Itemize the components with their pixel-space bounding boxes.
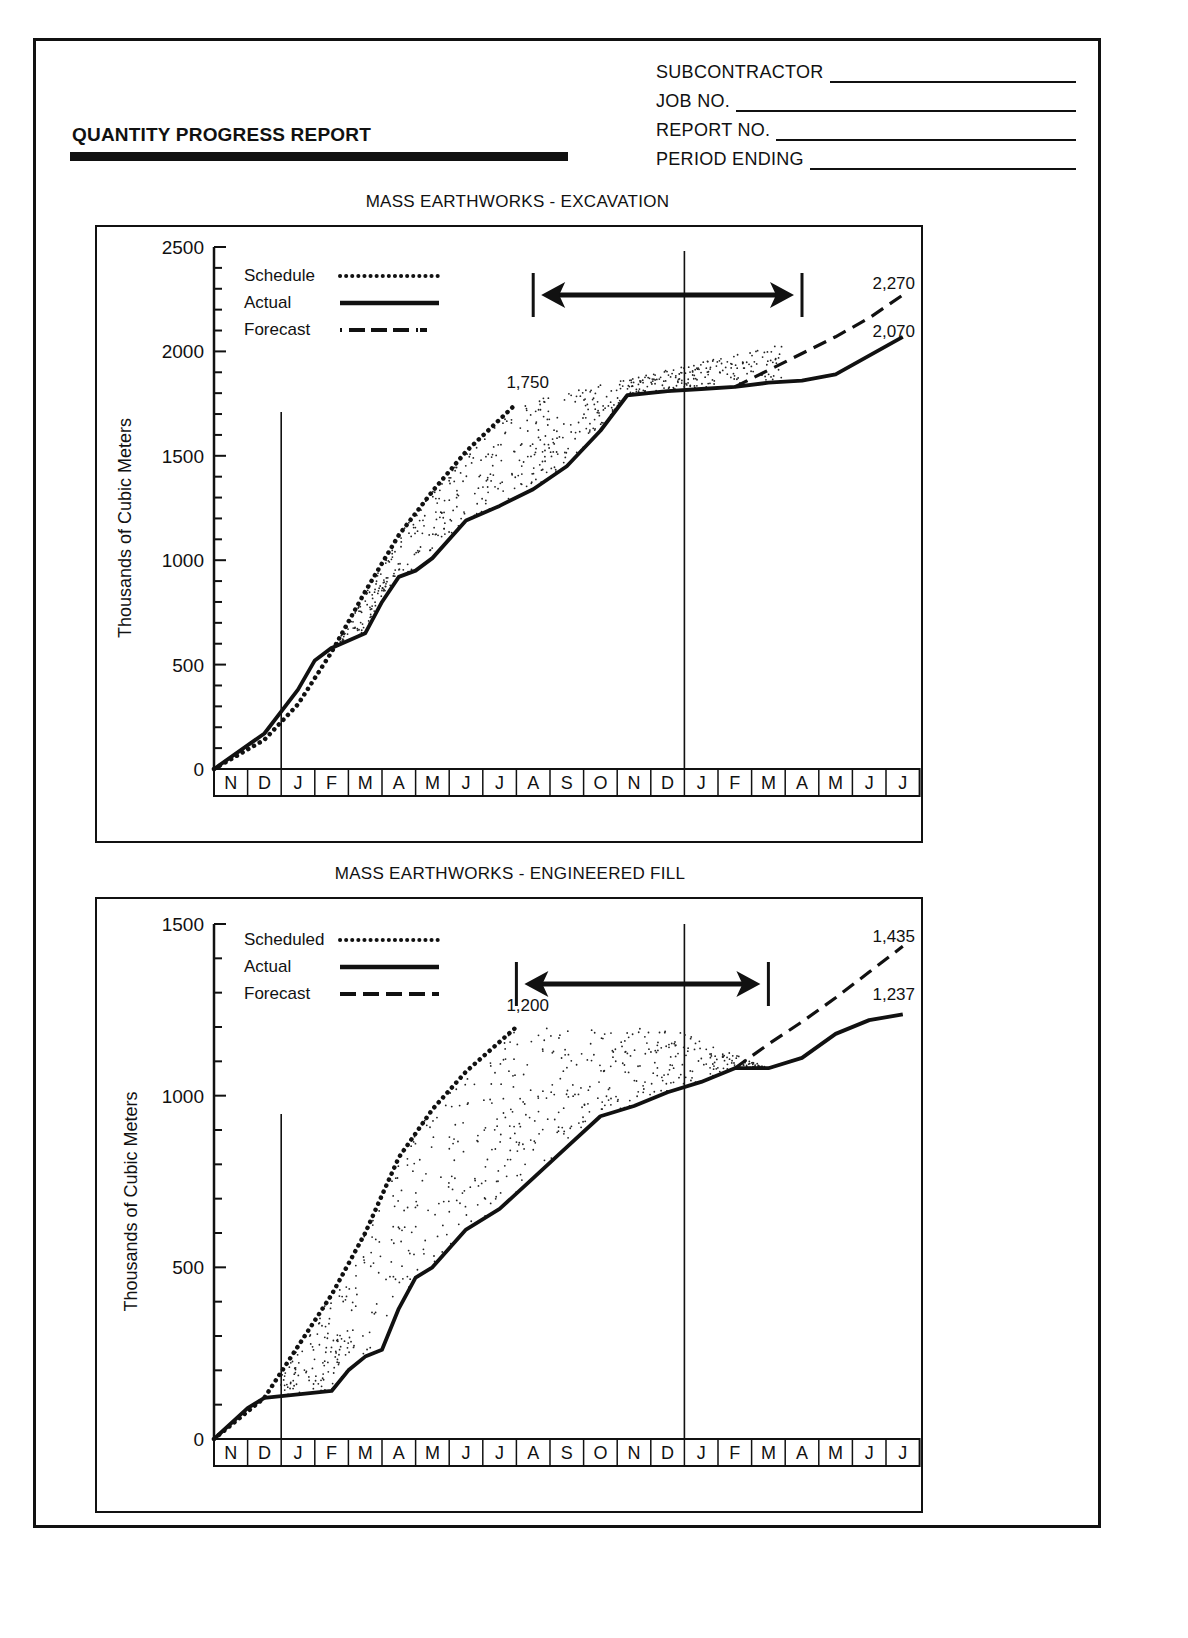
chart-fill-box: 150010005000Thousands of Cubic MetersNDJ… [95, 897, 923, 1513]
month-label: J [294, 773, 303, 793]
y-tick-label: 500 [172, 655, 204, 676]
month-label: F [729, 1443, 740, 1463]
chart-excavation-box: 25002000150010005000Thousands of Cubic M… [95, 225, 923, 843]
schedule-line [214, 1027, 516, 1439]
y-tick-label: 1000 [162, 550, 204, 571]
month-label: A [796, 1443, 808, 1463]
schedule-end-value: 1,200 [506, 996, 549, 1015]
legend-label: Actual [244, 293, 291, 312]
y-tick-label: 1500 [162, 914, 204, 935]
month-label: J [697, 773, 706, 793]
month-label: J [898, 1443, 907, 1463]
job-no-label: JOB NO. [656, 91, 730, 112]
title-underline-bar [70, 152, 568, 161]
y-axis-label: Thousands of Cubic Meters [121, 1091, 141, 1311]
month-label: D [258, 773, 271, 793]
y-tick-label: 0 [193, 1429, 204, 1450]
y-tick-label: 1500 [162, 446, 204, 467]
month-label: F [326, 1443, 337, 1463]
month-label: J [462, 1443, 471, 1463]
subcontractor-field[interactable]: SUBCONTRACTOR [656, 62, 1076, 83]
month-label: J [865, 773, 874, 793]
forecast-end-value: 1,435 [872, 927, 915, 946]
month-label: N [224, 773, 237, 793]
month-label: J [898, 773, 907, 793]
chart-fill-title: MASS EARTHWORKS - ENGINEERED FILL [95, 864, 925, 884]
month-label: J [495, 773, 504, 793]
month-label: A [527, 773, 539, 793]
legend-label: Schedule [244, 266, 315, 285]
month-label: F [729, 773, 740, 793]
month-label: D [258, 1443, 271, 1463]
month-label: M [761, 1443, 776, 1463]
chart-legend: ScheduleActualForecast [244, 266, 439, 339]
forecast-end-value: 2,270 [872, 274, 915, 293]
actual-line [214, 1014, 903, 1439]
variance-stipple [334, 345, 786, 647]
month-label: N [628, 773, 641, 793]
legend-label: Forecast [244, 320, 310, 339]
variance-arrow-icon [516, 962, 768, 1006]
y-axis-label: Thousands of Cubic Meters [115, 418, 135, 638]
month-label: J [495, 1443, 504, 1463]
subcontractor-label: SUBCONTRACTOR [656, 62, 824, 83]
report-no-input-line[interactable] [776, 125, 1076, 141]
forecast-line [735, 295, 903, 387]
actual-end-value: 2,070 [872, 322, 915, 341]
month-label: N [224, 1443, 237, 1463]
month-label: M [761, 773, 776, 793]
month-label: J [697, 1443, 706, 1463]
month-label: D [661, 1443, 674, 1463]
month-label: M [358, 1443, 373, 1463]
job-no-input-line[interactable] [736, 96, 1076, 112]
subcontractor-input-line[interactable] [830, 67, 1076, 83]
month-label: A [393, 773, 405, 793]
period-ending-input-line[interactable] [810, 154, 1076, 170]
job-no-field[interactable]: JOB NO. [656, 91, 1076, 112]
month-label: A [796, 773, 808, 793]
month-label: F [326, 773, 337, 793]
month-label: N [628, 1443, 641, 1463]
month-label: O [593, 1443, 607, 1463]
legend-label: Forecast [244, 984, 310, 1003]
month-label: J [865, 1443, 874, 1463]
y-tick-label: 0 [193, 759, 204, 780]
month-label: D [661, 773, 674, 793]
schedule-line [214, 404, 516, 769]
variance-arrow-icon [533, 273, 802, 317]
month-label: M [828, 773, 843, 793]
chart-fill-plot: 150010005000Thousands of Cubic MetersNDJ… [97, 899, 925, 1515]
y-tick-label: 2500 [162, 237, 204, 258]
month-label: J [294, 1443, 303, 1463]
chart-legend: ScheduledActualForecast [244, 930, 439, 1003]
month-label: M [425, 1443, 440, 1463]
report-no-label: REPORT NO. [656, 120, 770, 141]
report-title: QUANTITY PROGRESS REPORT [72, 124, 371, 146]
actual-line [214, 337, 903, 769]
month-label: S [561, 1443, 573, 1463]
month-label: A [527, 1443, 539, 1463]
chart-excavation-plot: 25002000150010005000Thousands of Cubic M… [97, 227, 925, 845]
y-tick-label: 2000 [162, 341, 204, 362]
report-no-field[interactable]: REPORT NO. [656, 120, 1076, 141]
actual-end-value: 1,237 [872, 985, 915, 1004]
legend-label: Scheduled [244, 930, 324, 949]
month-label: M [828, 1443, 843, 1463]
month-label: M [425, 773, 440, 793]
y-tick-label: 500 [172, 1257, 204, 1278]
month-label: M [358, 773, 373, 793]
schedule-end-value: 1,750 [506, 373, 549, 392]
period-ending-label: PERIOD ENDING [656, 149, 804, 170]
y-tick-label: 1000 [162, 1086, 204, 1107]
month-label: J [462, 773, 471, 793]
month-label: S [561, 773, 573, 793]
month-label: O [593, 773, 607, 793]
month-label: A [393, 1443, 405, 1463]
forecast-line [735, 946, 903, 1068]
period-ending-field[interactable]: PERIOD ENDING [656, 149, 1076, 170]
legend-label: Actual [244, 957, 291, 976]
chart-excavation-title: MASS EARTHWORKS - EXCAVATION [95, 192, 940, 212]
